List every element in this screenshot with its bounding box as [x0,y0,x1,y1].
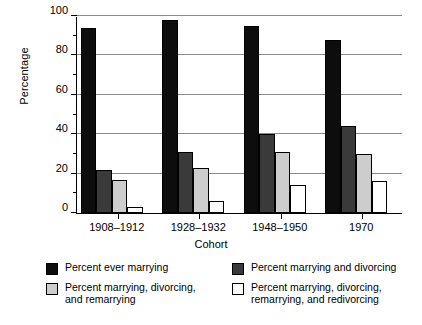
bar [193,168,209,213]
x-axis-tick-label: 1948–1950 [252,221,307,233]
bar [259,134,275,213]
x-axis-tick [362,213,363,219]
legend-swatch [46,283,58,295]
bar [127,207,143,213]
bar [96,170,112,213]
legend-item: Percent marrying, divorcing, and remarry… [46,282,232,305]
legend-item: Percent ever marrying [46,262,232,275]
x-axis-tick [281,213,282,219]
legend-label: Percent marrying, divorcing, remarrying,… [251,282,382,305]
bar [244,26,260,213]
legend-label: Percent marrying, divorcing, and remarry… [65,282,196,305]
bar [209,201,225,213]
legend-label: Percent marrying and divorcing [251,262,396,274]
bar [178,152,194,213]
bar-group [159,17,241,213]
legend-item: Percent marrying and divorcing [232,262,406,275]
legend-swatch [46,263,58,275]
gridline [77,15,402,16]
x-axis-title: Cohort [0,238,422,250]
bar-group [77,17,159,213]
bar [112,180,128,213]
x-axis-tick-label: 1908–1912 [89,221,144,233]
y-axis-tick-label: 20 [34,162,68,174]
bar-chart-figure: Percentage 020406080100 Cohort Percent e… [0,0,422,325]
legend-swatch [232,263,244,275]
legend-swatch [232,283,244,295]
chart-legend: Percent ever marryingPercent marrying an… [46,262,406,305]
x-axis-tick-label: 1970 [349,221,373,233]
plot-area: 020406080100 [76,17,402,214]
y-axis-tick-label: 100 [34,4,68,16]
y-axis-tick-label: 0 [34,201,68,213]
x-axis-tick [118,213,119,219]
x-axis-tick-label: 1928–1932 [171,221,226,233]
y-axis-tick [71,15,77,16]
bar-group [322,17,404,213]
y-axis-tick-label: 40 [34,122,68,134]
bar [372,181,388,213]
bar [290,185,306,213]
bar-group [240,17,322,213]
y-axis-tick-label: 60 [34,83,68,95]
y-axis-title: Percentage [18,6,30,146]
bar [162,20,178,213]
x-axis-tick [199,213,200,219]
bar [341,126,357,213]
legend-item: Percent marrying, divorcing, remarrying,… [232,282,406,305]
bar [325,40,341,213]
bar [275,152,291,213]
legend-label: Percent ever marrying [65,262,168,274]
bar [356,154,372,213]
bar [81,28,97,213]
y-axis-tick-label: 80 [34,43,68,55]
